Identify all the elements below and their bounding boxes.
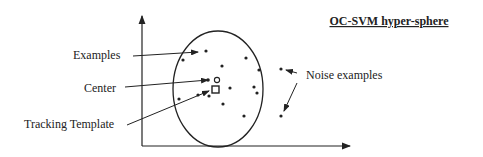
noise-examples-label: Noise examples bbox=[306, 68, 383, 82]
noise-arrow-lower bbox=[284, 83, 297, 111]
example-points bbox=[177, 49, 260, 117]
examples-arrow bbox=[133, 52, 198, 56]
tracking-template-arrow bbox=[127, 91, 209, 125]
tracking-template-marker bbox=[212, 86, 219, 93]
tracking-template-label: Tracking Template bbox=[24, 117, 114, 131]
diagram-title: OC-SVM hyper-sphere bbox=[330, 14, 450, 28]
label-arrows bbox=[125, 52, 297, 125]
oc-svm-diagram: OC-SVM hyper-sphere Examples Center Trac… bbox=[0, 0, 483, 157]
center-arrow bbox=[125, 80, 208, 87]
noise-points bbox=[279, 67, 282, 117]
noise-arrow-upper bbox=[286, 70, 297, 73]
examples-label: Examples bbox=[73, 48, 121, 62]
center-label: Center bbox=[84, 81, 116, 95]
center-marker bbox=[214, 77, 219, 82]
